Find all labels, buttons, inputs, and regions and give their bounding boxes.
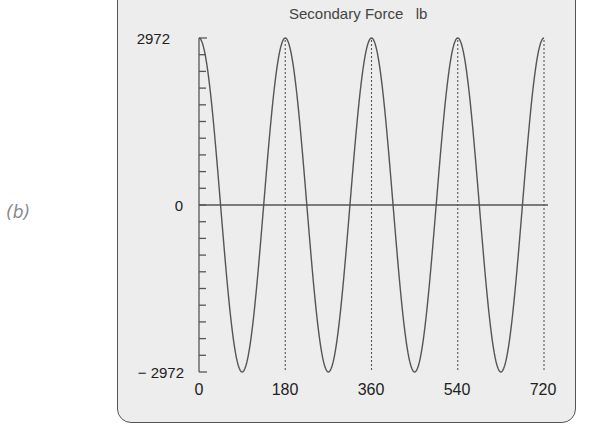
x-tick-label-540: 540: [432, 381, 482, 399]
chart-title: Secondary Force lb: [289, 5, 427, 22]
x-tick-label-360: 360: [346, 381, 396, 399]
y-tick-label-min: − 2972: [124, 364, 184, 381]
dotted-reference-lines: [285, 40, 544, 372]
y-tick-label-zero: 0: [123, 197, 183, 214]
x-tick-label-180: 180: [260, 381, 310, 399]
x-tick-label-720: 720: [518, 381, 568, 399]
plot-area: [0, 0, 589, 441]
y-tick-label-max: 2972: [110, 30, 170, 47]
x-tick-label-0: 0: [174, 381, 224, 399]
axes: [199, 38, 548, 372]
